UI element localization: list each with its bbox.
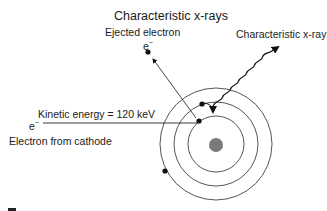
ejected-electron-label: Ejected electron: [105, 27, 180, 38]
ejected-electron-symbol: e−: [143, 39, 153, 52]
electron-inner-shell: [196, 118, 201, 123]
ejected-electron-path: [153, 59, 196, 118]
diagram-title: Characteristic x-rays: [114, 10, 228, 23]
electron-outer-shell: [162, 168, 167, 173]
panel-label-fragment: [8, 208, 16, 211]
characteristic-xray-label: Characteristic x-ray: [236, 29, 326, 40]
kinetic-energy-label: Kinetic energy = 120 keV: [38, 109, 155, 120]
xray-wave-arrow: [213, 47, 278, 106]
incident-electron-symbol: e−: [29, 119, 39, 132]
electron-transition-arrow: [204, 103, 213, 112]
electron-from-cathode-label: Electron from cathode: [9, 136, 112, 147]
electron-middle-shell: [199, 101, 204, 106]
nucleus: [209, 138, 223, 152]
